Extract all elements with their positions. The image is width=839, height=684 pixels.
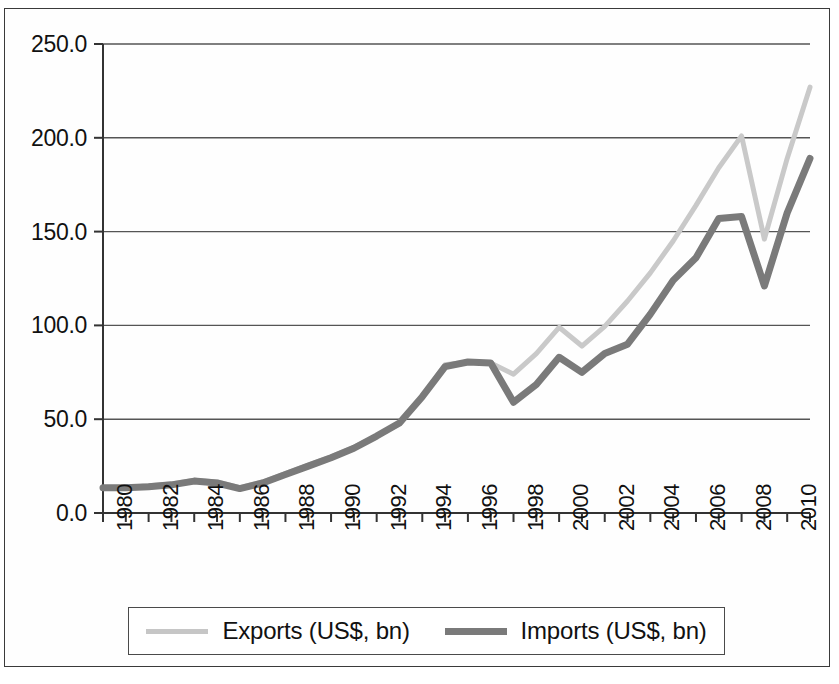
x-axis-tick-label: 1982 bbox=[158, 484, 184, 531]
line-chart bbox=[0, 0, 839, 684]
y-axis-tick-label: 100.0 bbox=[0, 312, 87, 339]
legend-label-exports: Exports (US$, bn) bbox=[222, 617, 409, 645]
x-axis-tick-label: 1984 bbox=[203, 484, 229, 531]
x-axis-tick-label: 2002 bbox=[614, 484, 640, 531]
x-axis-tick-label: 1990 bbox=[340, 484, 366, 531]
x-axis-tick-label: 1988 bbox=[294, 484, 320, 531]
x-axis-tick-label: 2010 bbox=[796, 484, 822, 531]
legend-item-exports: Exports (US$, bn) bbox=[146, 617, 409, 645]
x-axis-tick-label: 2006 bbox=[705, 484, 731, 531]
legend-item-imports: Imports (US$, bn) bbox=[445, 617, 707, 645]
x-axis-tick-label: 1992 bbox=[386, 484, 412, 531]
y-axis-tick-label: 50.0 bbox=[0, 406, 87, 433]
y-axis-tick-label: 0.0 bbox=[0, 500, 87, 527]
legend-label-imports: Imports (US$, bn) bbox=[521, 617, 707, 645]
y-axis-tick-label: 200.0 bbox=[0, 124, 87, 151]
series-line bbox=[103, 87, 810, 488]
chart-legend: Exports (US$, bn) Imports (US$, bn) bbox=[128, 607, 725, 655]
y-axis-tick-label: 250.0 bbox=[0, 31, 87, 58]
x-axis-tick-label: 1998 bbox=[523, 484, 549, 531]
x-axis-tick-label: 2008 bbox=[751, 484, 777, 531]
legend-swatch-imports-icon bbox=[445, 628, 507, 635]
series-lines bbox=[103, 87, 810, 488]
legend-swatch-exports-icon bbox=[146, 629, 208, 634]
x-axis-tick-label: 1980 bbox=[112, 484, 138, 531]
x-axis-tick-label: 1986 bbox=[249, 484, 275, 531]
x-axis-tick-label: 1996 bbox=[477, 484, 503, 531]
y-axis-ticks bbox=[94, 44, 103, 513]
x-axis-tick-label: 2000 bbox=[568, 484, 594, 531]
y-axis-tick-label: 150.0 bbox=[0, 218, 87, 245]
series-line bbox=[103, 158, 810, 488]
gridlines bbox=[103, 44, 810, 513]
x-axis-tick-label: 2004 bbox=[659, 484, 685, 531]
x-axis-tick-label: 1994 bbox=[431, 484, 457, 531]
